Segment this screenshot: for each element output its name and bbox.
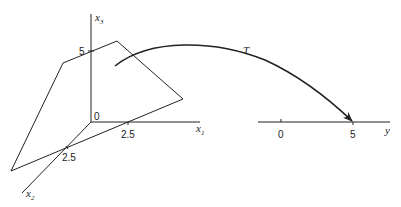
x2-axis-label: x2 [25, 187, 35, 202]
y-axis-label: y [384, 124, 390, 136]
transformation-diagram: x3 x1 x2 5 2.5 2.5 0 T 0 5 y [0, 0, 401, 207]
transformation-arrow [115, 45, 352, 121]
plane-quadrilateral [11, 41, 183, 171]
x2-axis [22, 122, 91, 193]
x1-tick-label: 2.5 [121, 129, 135, 140]
y-tick-label-5: 5 [350, 129, 356, 140]
x1-axis-label: x1 [195, 122, 204, 137]
y-tick-label-0: 0 [278, 129, 284, 140]
x3-tick-label: 5 [79, 46, 85, 57]
transformation-label: T [243, 44, 250, 56]
x2-tick-label: 2.5 [62, 152, 76, 163]
x3-axis-label: x3 [94, 11, 104, 26]
origin-label: 0 [94, 111, 100, 122]
codomain-axis: 0 5 y [258, 119, 390, 140]
